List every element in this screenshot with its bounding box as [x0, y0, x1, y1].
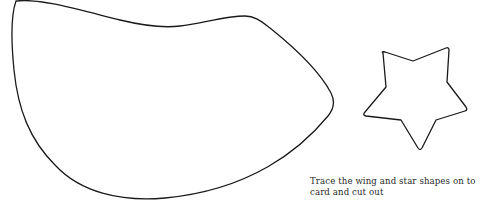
caption-line-2: card and cut out: [310, 187, 480, 198]
caption-line-1: Trace the wing and star shapes on to: [310, 176, 480, 187]
wing-outline: [12, 1, 334, 199]
instruction-caption: Trace the wing and star shapes on to car…: [310, 176, 480, 198]
craft-template-page: Trace the wing and star shapes on to car…: [0, 0, 483, 211]
star-outline: [364, 48, 467, 150]
